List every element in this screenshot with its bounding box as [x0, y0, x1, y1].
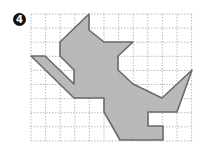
cat-shape [31, 14, 192, 140]
grid-figure [0, 0, 200, 146]
